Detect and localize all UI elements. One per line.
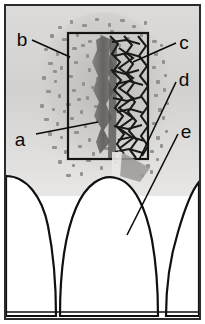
label-b: b (17, 29, 28, 50)
label-e: e (181, 121, 192, 142)
label-d: d (179, 69, 190, 90)
radiograph-figure: a b c d e (0, 0, 205, 324)
label-a: a (15, 129, 26, 150)
radiograph-canvas: a b c d e (0, 0, 205, 324)
label-c: c (179, 32, 189, 53)
